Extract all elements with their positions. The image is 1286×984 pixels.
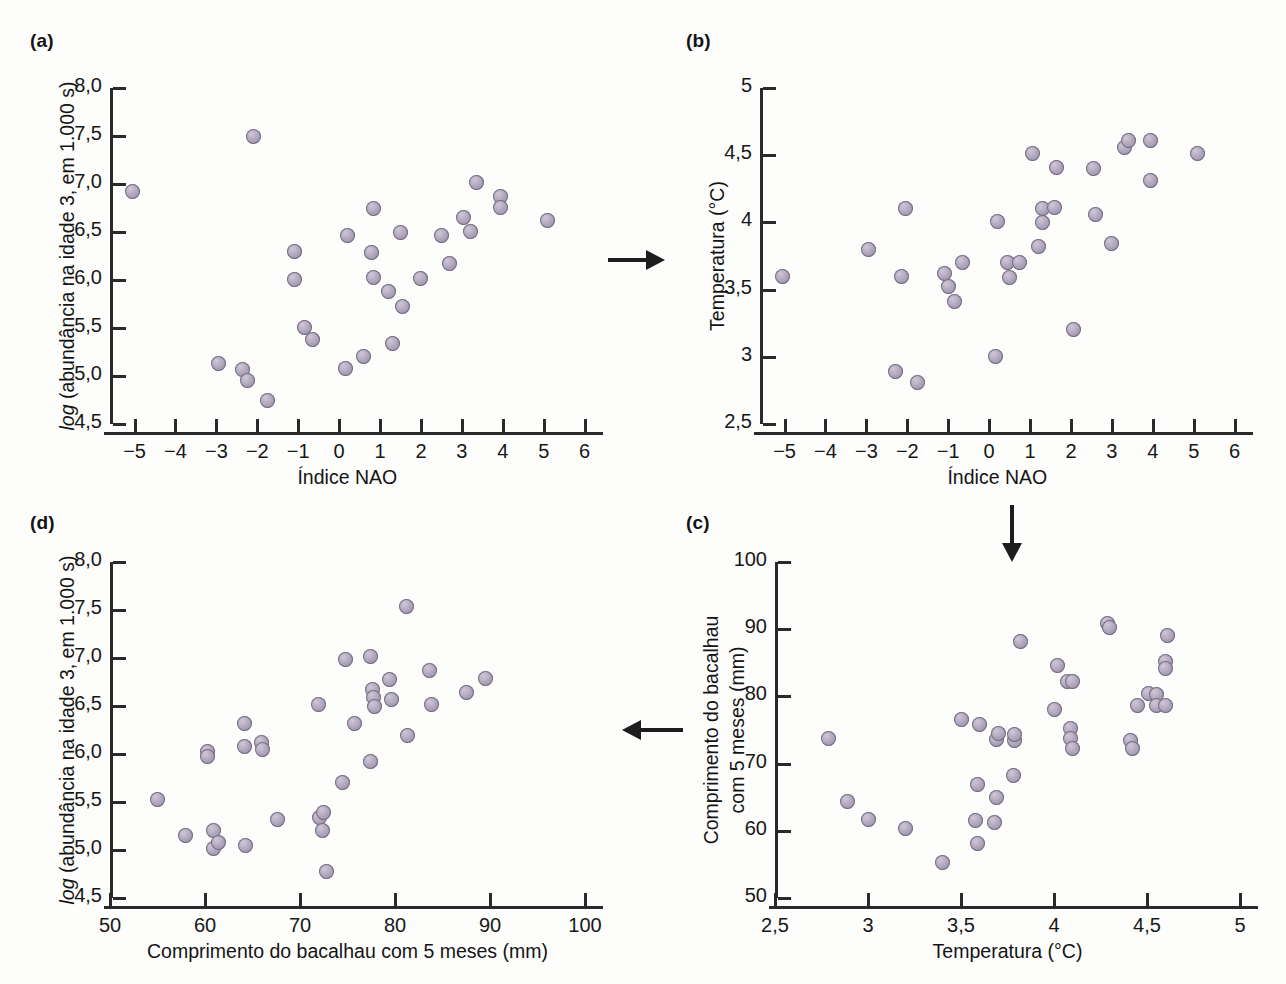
arrow-head [1002, 543, 1022, 562]
data-point [237, 739, 252, 754]
data-point [319, 864, 334, 879]
data-point [311, 697, 326, 712]
figure-root: (a)4,55,05,56,06,57,07,58,0−5−4−3−2−1012… [0, 0, 1286, 984]
data-point [459, 685, 474, 700]
arrow-head [622, 720, 641, 740]
data-point [422, 663, 437, 678]
arrow-shaft [1010, 505, 1014, 547]
data-point [338, 652, 353, 667]
data-point [200, 749, 215, 764]
data-point [399, 599, 414, 614]
data-point [367, 699, 382, 714]
arrow-shaft [641, 728, 683, 732]
data-point [335, 775, 350, 790]
data-point [238, 838, 253, 853]
arrow-shaft [608, 258, 650, 262]
data-point [211, 835, 226, 850]
data-point [315, 823, 330, 838]
data-point [347, 716, 362, 731]
arrow-c-to-d [622, 720, 684, 740]
data-point [363, 754, 378, 769]
data-point [150, 792, 165, 807]
data-point [478, 671, 493, 686]
data-point [424, 697, 439, 712]
data-point [316, 805, 331, 820]
data-point [382, 672, 397, 687]
data-point [270, 812, 285, 827]
plot-area-d [0, 0, 1286, 984]
arrow-head [646, 250, 665, 270]
data-point [237, 716, 252, 731]
arrow-a-to-b [608, 250, 668, 270]
data-point [363, 649, 378, 664]
data-point [255, 742, 270, 757]
data-point [178, 828, 193, 843]
data-point [384, 692, 399, 707]
arrow-b-to-c [1002, 505, 1022, 565]
panel-d: (d)4,55,05,56,06,57,07,58,05060708090100… [0, 0, 1286, 984]
data-point [400, 728, 415, 743]
